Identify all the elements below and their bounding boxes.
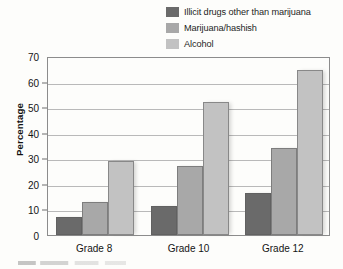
y-axis-ticks: 010203040506070 xyxy=(0,57,47,236)
x-axis-category-label: Grade 12 xyxy=(262,243,304,254)
bar xyxy=(56,217,82,235)
y-axis-tick-label: 10 xyxy=(28,205,39,216)
x-axis-category-label: Grade 10 xyxy=(168,243,210,254)
bar xyxy=(82,202,108,235)
cropped-caption-sliver xyxy=(18,261,126,265)
bar-group xyxy=(151,58,229,235)
bar-chart-figure: Illicit drugs other than marijuana Marij… xyxy=(0,0,343,269)
legend-label-alcohol: Alcohol xyxy=(184,39,213,49)
legend-item-marijuana: Marijuana/hashish xyxy=(166,20,343,35)
plot-area xyxy=(47,57,330,236)
legend-item-illicit-drugs: Illicit drugs other than marijuana xyxy=(166,4,343,19)
y-axis-tick-label: 40 xyxy=(28,128,39,139)
y-axis-tick-label: 50 xyxy=(28,103,39,114)
y-axis-tick-label: 60 xyxy=(28,77,39,88)
legend-label-marijuana: Marijuana/hashish xyxy=(184,23,257,33)
bar-group xyxy=(245,58,323,235)
bar xyxy=(297,70,323,235)
bar xyxy=(151,206,177,235)
bar xyxy=(271,148,297,235)
y-axis-tick-label: 0 xyxy=(33,231,39,242)
chart-legend: Illicit drugs other than marijuana Marij… xyxy=(166,4,343,52)
y-axis-tick-label: 20 xyxy=(28,179,39,190)
bar xyxy=(203,102,229,235)
y-axis-tick-label: 30 xyxy=(28,154,39,165)
bar-group xyxy=(56,58,134,235)
legend-swatch-illicit-drugs xyxy=(166,7,179,17)
bar xyxy=(245,193,271,235)
bar xyxy=(177,166,203,235)
legend-label-illicit-drugs: Illicit drugs other than marijuana xyxy=(184,7,311,17)
legend-swatch-alcohol xyxy=(166,39,179,49)
y-axis-tick-label: 70 xyxy=(28,52,39,63)
legend-swatch-marijuana xyxy=(166,23,179,33)
x-axis-category-label: Grade 8 xyxy=(76,243,112,254)
bar xyxy=(108,161,134,235)
legend-item-alcohol: Alcohol xyxy=(166,36,343,51)
